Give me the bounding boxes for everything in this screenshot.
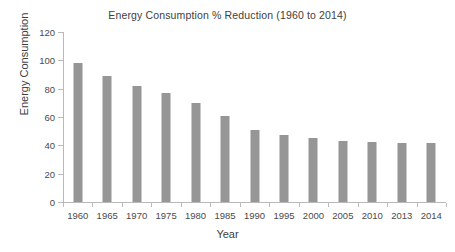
y-tick-label: 80 [44, 83, 55, 94]
bar [397, 143, 406, 203]
y-tick-mark [58, 174, 63, 175]
bar [191, 103, 200, 202]
x-tick-mark [417, 203, 418, 207]
bar [427, 143, 436, 203]
bar [368, 142, 377, 202]
x-tick-mark [122, 203, 123, 207]
y-tick-label: 120 [39, 27, 55, 38]
y-tick-label: 60 [44, 112, 55, 123]
x-tick-mark [63, 203, 64, 207]
x-tick-mark [328, 203, 329, 207]
y-axis-line [63, 32, 64, 203]
y-tick-mark [58, 60, 63, 61]
x-tick-mark [446, 203, 447, 207]
y-tick-mark [58, 89, 63, 90]
x-tick-mark [240, 203, 241, 207]
bar [103, 76, 112, 202]
x-tick-mark [269, 203, 270, 207]
y-tick-label: 20 [44, 168, 55, 179]
x-tick-label: 2000 [303, 210, 324, 221]
chart-title: Energy Consumption % Reduction (1960 to … [0, 9, 455, 21]
x-tick-label: 1965 [97, 210, 118, 221]
x-tick-label: 2014 [421, 210, 442, 221]
bar [309, 138, 318, 202]
x-tick-mark [299, 203, 300, 207]
x-tick-label: 2010 [362, 210, 383, 221]
x-tick-mark [358, 203, 359, 207]
x-tick-label: 1970 [126, 210, 147, 221]
x-tick-mark [181, 203, 182, 207]
y-tick-mark [58, 32, 63, 33]
y-tick-mark [58, 145, 63, 146]
x-tick-mark [210, 203, 211, 207]
bar [250, 130, 259, 202]
x-tick-label: 1985 [214, 210, 235, 221]
x-tick-label: 1995 [273, 210, 294, 221]
chart-page: Energy Consumption % Reduction (1960 to … [0, 0, 455, 252]
x-tick-label: 2005 [332, 210, 353, 221]
y-tick-label: 0 [50, 197, 55, 208]
x-tick-label: 1960 [67, 210, 88, 221]
bar [221, 116, 230, 202]
x-tick-label: 1975 [156, 210, 177, 221]
bar [279, 135, 288, 202]
bar [162, 93, 171, 202]
bar [132, 86, 141, 202]
x-tick-mark [151, 203, 152, 207]
y-tick-mark [58, 117, 63, 118]
x-tick-mark [387, 203, 388, 207]
x-axis-title: Year [0, 228, 455, 240]
x-tick-label: 2013 [391, 210, 412, 221]
y-tick-label: 100 [39, 55, 55, 66]
y-tick-label: 40 [44, 140, 55, 151]
y-axis-title: Energy Consumption [18, 0, 30, 139]
x-tick-label: 1980 [185, 210, 206, 221]
plot-area: 020406080100120 196019651970197519801985… [63, 32, 446, 203]
bar [73, 63, 82, 202]
x-tick-mark [92, 203, 93, 207]
x-tick-label: 1990 [244, 210, 265, 221]
bar [338, 141, 347, 202]
x-axis-line [63, 202, 446, 203]
